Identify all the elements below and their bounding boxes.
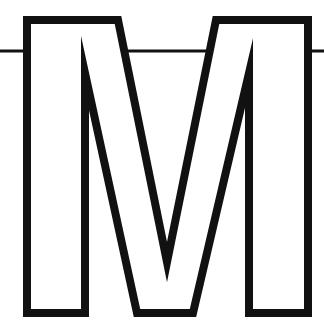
artwork-canvas: M bbox=[0, 0, 324, 336]
letter-m-artwork bbox=[0, 0, 324, 336]
